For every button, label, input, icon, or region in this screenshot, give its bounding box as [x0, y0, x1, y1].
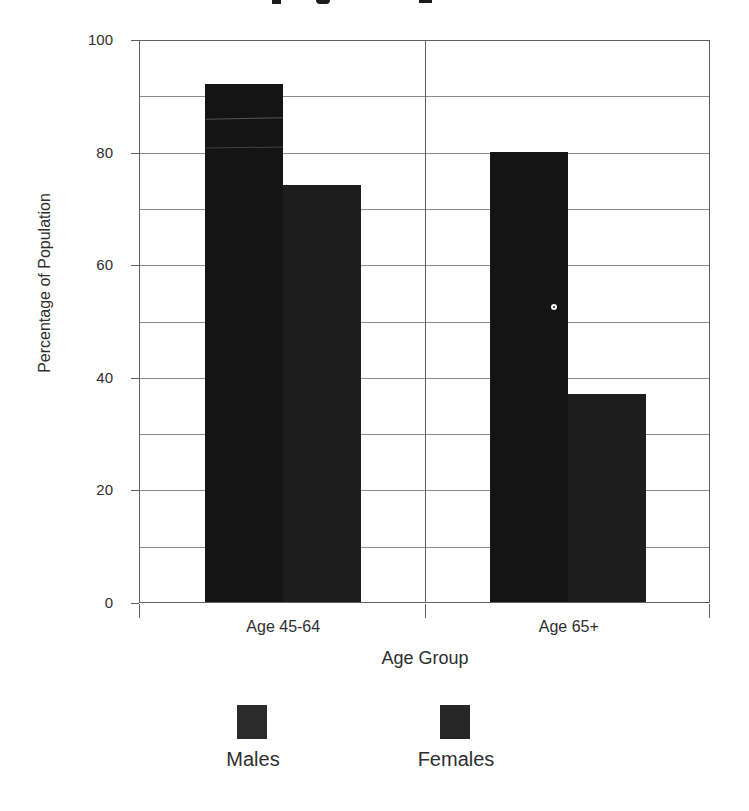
x-tick-2	[709, 604, 710, 618]
legend-swatch-females	[440, 705, 470, 739]
y-tick-label-100: 100	[60, 31, 113, 49]
x-tick-label-age-45-64: Age 45-64	[246, 618, 320, 636]
x-tick-label-age-65: Age 65+	[539, 618, 599, 636]
bar-chart-figure: Percentage of Population 020406080100Age…	[0, 0, 749, 811]
y-axis-title: Percentage of Population	[36, 173, 56, 393]
y-tick-label-40: 40	[60, 369, 113, 387]
plot-area	[139, 40, 710, 603]
y-tick-20	[131, 490, 139, 491]
y-tick-label-60: 60	[60, 256, 113, 274]
legend-label-females: Females	[418, 748, 495, 771]
cropped-title-fragment	[272, 0, 281, 4]
bar-females-age-45-64	[283, 185, 361, 602]
x-tick-0	[139, 604, 140, 618]
cropped-title-fragment	[419, 0, 432, 3]
x-axis-title: Age Group	[381, 648, 468, 669]
legend-swatch-males	[237, 705, 267, 739]
y-tick-label-80: 80	[60, 144, 113, 162]
y-tick-60	[131, 265, 139, 266]
legend-label-males: Males	[226, 748, 279, 771]
bar-males-age-65	[490, 152, 568, 602]
y-tick-label-20: 20	[60, 481, 113, 499]
cropped-title-fragment	[316, 0, 330, 4]
x-tick-1	[425, 604, 426, 618]
scan-artifact-dot	[551, 304, 557, 310]
y-tick-100	[131, 40, 139, 41]
bar-females-age-65	[568, 394, 646, 602]
y-tick-0	[131, 603, 139, 604]
y-tick-40	[131, 378, 139, 379]
y-tick-80	[131, 153, 139, 154]
y-tick-label-0: 0	[60, 594, 113, 612]
category-separator-line	[425, 41, 426, 602]
bar-males-age-45-64	[205, 84, 283, 602]
